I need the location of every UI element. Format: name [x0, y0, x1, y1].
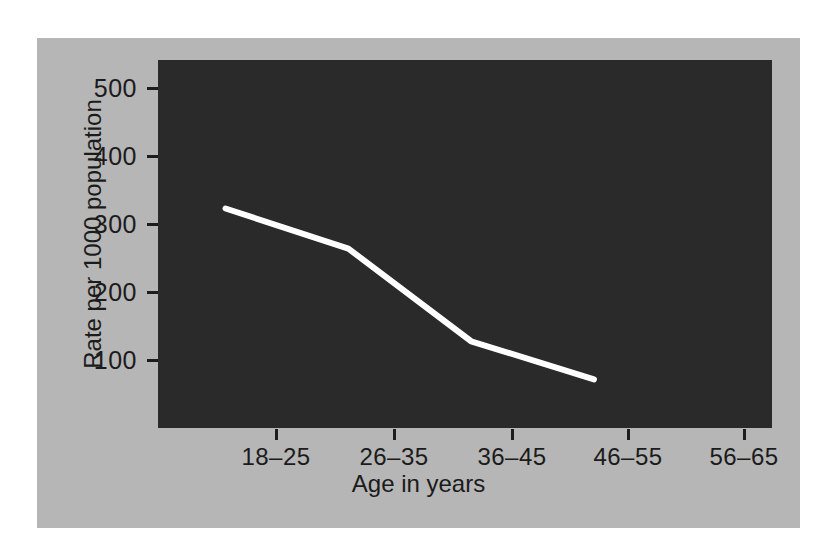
figure: 500 400 300 200 100 18–25 26–35 36–45 46…: [0, 0, 834, 560]
x-tick-46-55: [627, 429, 630, 440]
y-tick-200: [147, 291, 158, 294]
y-tick-300: [147, 223, 158, 226]
y-axis-title: Rate per 1000 population: [79, 69, 107, 399]
data-line-series: [226, 209, 594, 380]
x-tick-label-56-65: 56–65: [684, 443, 804, 471]
chart-panel: 500 400 300 200 100 18–25 26–35 36–45 46…: [37, 38, 800, 528]
x-axis-title: Age in years: [37, 470, 800, 498]
x-tick-label-36-45: 36–45: [452, 443, 572, 471]
x-tick-label-46-55: 46–55: [568, 443, 688, 471]
x-tick-label-26-35: 26–35: [334, 443, 454, 471]
y-tick-100: [147, 359, 158, 362]
x-tick-18-25: [275, 429, 278, 440]
x-tick-label-18-25: 18–25: [216, 443, 336, 471]
plot-area: [158, 60, 772, 428]
x-tick-36-45: [511, 429, 514, 440]
y-tick-500: [147, 87, 158, 90]
x-tick-26-35: [393, 429, 396, 440]
y-tick-400: [147, 155, 158, 158]
x-tick-56-65: [743, 429, 746, 440]
data-line-svg: [158, 60, 772, 428]
